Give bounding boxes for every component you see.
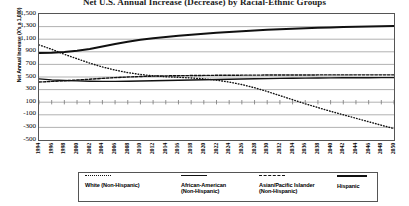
x-tick-label: 2038 bbox=[314, 143, 320, 154]
legend-item[interactable]: African-American (Non-Hispanic) bbox=[181, 175, 259, 195]
x-tick-label: 1994 bbox=[35, 143, 41, 154]
series-line bbox=[39, 45, 394, 131]
x-tick-label: 1996 bbox=[48, 143, 54, 154]
x-tick-label: 2030 bbox=[263, 143, 269, 154]
x-tick-label: 2022 bbox=[213, 143, 219, 154]
y-tick-label: -100 bbox=[2, 110, 36, 117]
x-tick-label: 2028 bbox=[251, 143, 257, 154]
x-tick-label: 2004 bbox=[98, 143, 104, 154]
legend-swatch-dashed-icon bbox=[259, 175, 285, 181]
y-tick-label: 900 bbox=[2, 47, 36, 54]
x-axis-tick-labels: 1994199619982000200220042006200820102012… bbox=[38, 143, 395, 165]
x-tick-label: 2044 bbox=[352, 143, 358, 154]
legend-item[interactable]: Hispanic bbox=[337, 175, 377, 189]
chart-root: Net U.S. Annual Increase (Decrease) by R… bbox=[0, 0, 409, 206]
x-tick-label: 2010 bbox=[136, 143, 142, 154]
x-tick-label: 2046 bbox=[365, 143, 371, 154]
x-tick-label: 2006 bbox=[111, 143, 117, 154]
y-tick-label: -500 bbox=[2, 136, 36, 143]
legend-label: Asian/Pacific Islander (Non-Hispanic) bbox=[259, 182, 337, 195]
series-canvas bbox=[39, 14, 394, 140]
x-tick-label: 2016 bbox=[174, 143, 180, 154]
x-tick-label: 1998 bbox=[60, 143, 66, 154]
x-tick-label: 2026 bbox=[238, 143, 244, 154]
x-tick-label: 2048 bbox=[377, 143, 383, 154]
x-tick-label: 2042 bbox=[339, 143, 345, 154]
y-tick-label: 1,500 bbox=[2, 10, 36, 17]
chart-title: Net U.S. Annual Increase (Decrease) by R… bbox=[0, 0, 409, 7]
x-tick-label: 2040 bbox=[327, 143, 333, 154]
x-tick-label: 2032 bbox=[276, 143, 282, 154]
x-tick-label: 2034 bbox=[289, 143, 295, 154]
x-tick-label: 2014 bbox=[162, 143, 168, 154]
legend-label: White (Non-Hispanic) bbox=[85, 182, 179, 188]
y-tick-label: 1,100 bbox=[2, 35, 36, 42]
legend-label: Hispanic bbox=[337, 183, 377, 189]
y-tick-label: 100 bbox=[2, 98, 36, 105]
y-tick-label: -300 bbox=[2, 123, 36, 130]
x-tick-label: 2018 bbox=[187, 143, 193, 154]
y-axis-tick-labels: 1,5001,3001,100900700500300100-100-300-5… bbox=[0, 0, 36, 141]
x-tick-label: 2012 bbox=[149, 143, 155, 154]
x-tick-label: 2002 bbox=[86, 143, 92, 154]
x-tick-label: 2024 bbox=[225, 143, 231, 154]
chart-legend: White (Non-Hispanic)African-American (No… bbox=[78, 172, 378, 202]
plot-area bbox=[38, 13, 395, 141]
y-tick-label: 700 bbox=[2, 60, 36, 67]
x-tick-label: 2036 bbox=[301, 143, 307, 154]
x-tick-label: 2020 bbox=[200, 143, 206, 154]
legend-item[interactable]: White (Non-Hispanic) bbox=[85, 175, 179, 188]
y-tick-label: 300 bbox=[2, 85, 36, 92]
y-tick-label: 500 bbox=[2, 73, 36, 80]
y-tick-label: 1,300 bbox=[2, 22, 36, 29]
legend-swatch-solid-thick-icon bbox=[337, 175, 367, 182]
legend-swatch-solid-icon bbox=[181, 175, 207, 181]
legend-swatch-dotted-icon bbox=[85, 175, 111, 181]
x-tick-label: 2008 bbox=[124, 143, 130, 154]
x-tick-label: 2050 bbox=[390, 143, 396, 154]
x-tick-label: 2000 bbox=[73, 143, 79, 154]
legend-item[interactable]: Asian/Pacific Islander (Non-Hispanic) bbox=[259, 175, 337, 195]
legend-label: African-American (Non-Hispanic) bbox=[181, 182, 259, 195]
